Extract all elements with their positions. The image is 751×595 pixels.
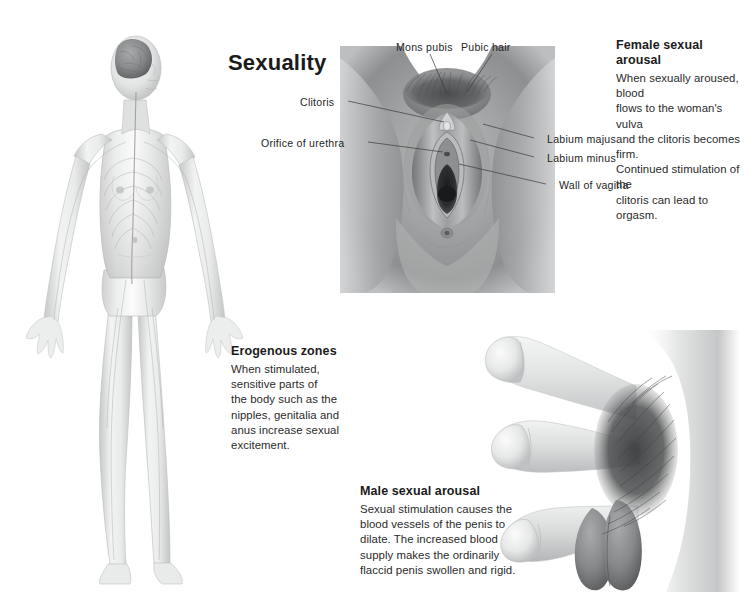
annotation-pubic-hair: Pubic hair [461,41,511,53]
annotation-mons-pubis: Mons pubis [396,41,453,53]
page-title: Sexuality [228,50,326,76]
callout-erogenous-zones: Erogenous zones When stimulated, sensiti… [231,344,351,453]
callout-heading-male-sexual-arousal: Male sexual arousal [360,484,555,499]
callout-heading-erogenous-zones: Erogenous zones [231,344,351,359]
annotation-orifice-of-urethra: Orifice of urethra [261,137,344,149]
callout-line: excitement. [231,439,290,451]
annotation-clitoris: Clitoris [300,96,334,108]
page-root: Sexuality [0,0,751,595]
callout-body-female-sexual-arousal: When sexually aroused, blood flows to th… [616,71,748,223]
callout-line: the body such as the [231,393,337,405]
callout-male-sexual-arousal: Male sexual arousal Sexual stimulation c… [360,484,555,578]
callout-line: Sexual stimulation causes the [360,503,512,515]
callout-body-erogenous-zones: When stimulated, sensitive parts of the … [231,362,351,453]
female-nervous-system-figure [14,8,254,588]
callout-line: blood vessels of the penis to [360,518,505,530]
callout-line: anus increase sexual [231,424,339,436]
callout-line: nipples, genitalia and [231,409,339,421]
annotation-labium-minus: Labium minus [547,152,616,164]
callout-female-sexual-arousal: Female sexual arousal When sexually arou… [616,38,748,223]
callout-line: flaccid penis swollen and rigid. [360,564,515,576]
callout-line: When sexually aroused, blood [616,72,739,99]
annotation-labium-majus: Labium majus [547,133,616,145]
callout-line: Continued stimulation of the [616,163,739,190]
female-external-genitalia-figure [340,28,555,293]
callout-line: clitoris can lead to orgasm. [616,194,708,221]
callout-line: flows to the woman's vulva [616,102,722,129]
callout-line: and the clitoris becomes firm. [616,133,740,160]
callout-line: dilate. The increased blood [360,533,498,545]
callout-line: supply makes the ordinarily [360,549,499,561]
callout-body-male-sexual-arousal: Sexual stimulation causes the blood vess… [360,502,555,578]
callout-line: sensitive parts of [231,378,317,390]
callout-heading-female-sexual-arousal: Female sexual arousal [616,38,748,68]
callout-line: When stimulated, [231,363,320,375]
